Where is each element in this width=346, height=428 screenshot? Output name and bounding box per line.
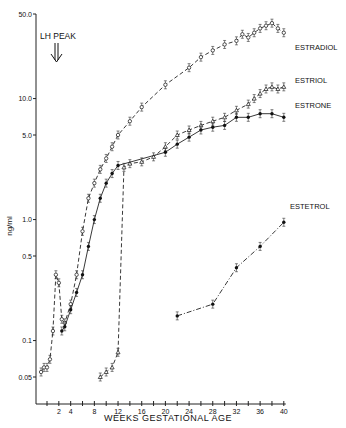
data-point: [39, 370, 42, 373]
data-point: [75, 291, 78, 294]
data-point: [81, 273, 84, 276]
lh-peak-annotation: LH PEAK: [40, 31, 76, 62]
data-point: [247, 116, 250, 119]
data-point: [116, 164, 119, 167]
double-down-arrow-icon: [51, 43, 62, 62]
data-point: [264, 87, 268, 91]
data-point: [57, 281, 60, 284]
data-point: [110, 145, 113, 148]
data-point: [105, 157, 108, 160]
data-point: [252, 97, 256, 101]
data-point: [176, 314, 179, 317]
data-point: [93, 181, 96, 184]
data-point: [199, 55, 202, 58]
lh-peak-label: LH PEAK: [40, 31, 76, 41]
data-point: [270, 112, 273, 115]
y-tick-label: 5.0: [22, 132, 32, 139]
y-tick-label: 10.0: [18, 95, 32, 102]
axes: 50.010.05.01.00.50.10.052481216202428323…: [18, 11, 287, 416]
data-point: [48, 358, 51, 361]
data-point: [211, 302, 214, 305]
y-tick-label: 0.1: [22, 337, 32, 344]
data-point: [270, 21, 273, 24]
series-group: [39, 19, 285, 381]
data-point: [128, 120, 131, 123]
data-point: [187, 135, 190, 138]
legend-label-estriol: ESTRIOL: [295, 76, 327, 85]
data-point: [258, 27, 261, 30]
x-tick-label: 4: [69, 408, 73, 415]
legend-label-estradiol: ESTRADIOL: [295, 43, 338, 52]
x-axis-label: WEEKS GESTATIONAL AGE: [104, 413, 232, 423]
data-point: [282, 221, 285, 224]
y-tick-label: 0.5: [22, 253, 32, 260]
data-point: [75, 273, 78, 276]
data-point: [282, 85, 286, 89]
data-point: [69, 308, 72, 311]
data-point: [110, 172, 113, 175]
data-point: [235, 266, 238, 269]
data-point: [258, 112, 261, 115]
data-point: [247, 36, 250, 39]
chart: 50.010.05.01.00.50.10.052481216202428323…: [0, 0, 346, 428]
data-point: [60, 318, 63, 321]
data-point: [187, 128, 191, 132]
x-tick-label: 8: [92, 408, 96, 415]
data-point: [234, 108, 238, 112]
data-point: [199, 128, 202, 131]
y-tick-label: 0.05: [18, 374, 32, 381]
y-tick-label: 50.0: [18, 11, 32, 18]
data-point: [122, 165, 126, 169]
series-estradiol: [39, 19, 285, 376]
data-point: [282, 31, 285, 34]
data-point: [211, 119, 215, 123]
x-tick-label: 32: [233, 408, 241, 415]
data-point: [116, 350, 120, 354]
data-point: [105, 181, 108, 184]
data-point: [258, 92, 262, 96]
data-point: [276, 27, 279, 30]
data-point: [163, 145, 167, 149]
data-point: [176, 142, 179, 145]
x-tick-label: 40: [280, 408, 288, 415]
data-point: [235, 116, 238, 119]
series-estetrol: [176, 218, 286, 320]
data-point: [54, 273, 57, 276]
legend-label-estetrol: ESTETROL: [290, 202, 330, 211]
data-point: [45, 366, 48, 369]
legend-label-estrone: ESTRONE: [295, 101, 331, 110]
data-point: [164, 151, 167, 154]
data-point: [276, 87, 280, 91]
legend: ESTRADIOLESTRIOLESTRONEESTETROL: [290, 43, 338, 211]
data-point: [116, 133, 119, 136]
data-point: [211, 126, 214, 129]
data-point: [223, 43, 226, 46]
y-tick-label: 1.0: [22, 216, 32, 223]
data-point: [253, 31, 256, 34]
data-point: [87, 197, 90, 200]
data-point: [140, 105, 143, 108]
data-point: [51, 329, 54, 332]
data-point: [223, 124, 226, 127]
series-estrone: [60, 110, 285, 335]
data-point: [140, 160, 144, 164]
data-point: [241, 33, 244, 36]
data-point: [63, 325, 66, 328]
data-point: [87, 245, 90, 248]
data-point: [99, 168, 102, 171]
data-point: [211, 49, 214, 52]
x-tick-label: 36: [256, 408, 264, 415]
data-point: [270, 85, 274, 89]
data-point: [187, 66, 190, 69]
data-point: [93, 218, 96, 221]
series-estriol: [98, 83, 286, 381]
data-point: [282, 116, 285, 119]
y-axis-label: ng/ml: [5, 216, 14, 236]
data-point: [258, 245, 261, 248]
data-point: [264, 24, 267, 27]
data-point: [81, 230, 84, 233]
data-point: [223, 115, 227, 119]
data-point: [235, 39, 238, 42]
data-point: [110, 365, 114, 369]
data-point: [164, 83, 167, 86]
